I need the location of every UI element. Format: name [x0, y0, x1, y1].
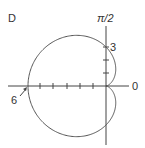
- axis-label-pi-over-2: π/2: [97, 12, 114, 24]
- axis-label-zero: 0: [132, 80, 138, 92]
- tick-label-6: 6: [11, 94, 17, 106]
- polar-diagram: D π/2 0 3 6: [0, 0, 145, 148]
- figure-label: D: [8, 12, 16, 24]
- tick-label-3: 3: [110, 41, 116, 53]
